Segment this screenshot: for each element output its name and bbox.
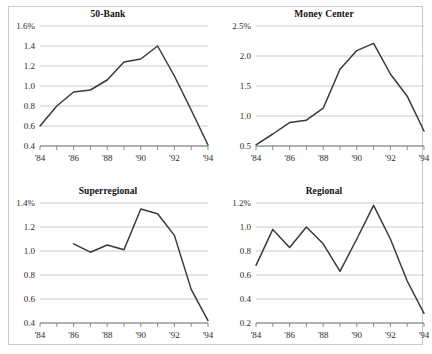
plot-money-center: 2.5%2.01.51.00.5'84'86'88'90'92'94 (216, 0, 432, 177)
svg-text:1.5: 1.5 (240, 81, 252, 91)
svg-text:1.0: 1.0 (24, 246, 36, 256)
svg-text:'86: '86 (68, 153, 79, 163)
svg-text:2.0: 2.0 (240, 51, 252, 61)
svg-text:1.2: 1.2 (24, 222, 35, 232)
svg-text:'92: '92 (169, 153, 180, 163)
svg-text:'90: '90 (351, 153, 362, 163)
svg-text:'94: '94 (419, 153, 430, 163)
svg-text:'86: '86 (284, 153, 295, 163)
svg-text:1.2%: 1.2% (232, 198, 251, 208)
chart-grid: 50-Bank 1.6%1.41.21.00.80.60.4'84'86'88'… (0, 0, 432, 354)
plot-superregional: 1.4%1.21.00.80.60.4'84'86'88'90'92'94 (0, 177, 216, 354)
svg-text:0.8: 0.8 (240, 246, 252, 256)
svg-text:0.6: 0.6 (240, 270, 252, 280)
svg-text:'84: '84 (251, 330, 262, 340)
svg-text:0.8: 0.8 (24, 101, 36, 111)
svg-text:'90: '90 (351, 330, 362, 340)
panel-money-center: Money Center 2.5%2.01.51.00.5'84'86'88'9… (216, 0, 432, 177)
svg-text:'92: '92 (385, 330, 396, 340)
svg-text:'84: '84 (35, 153, 46, 163)
panel-50-bank: 50-Bank 1.6%1.41.21.00.80.60.4'84'86'88'… (0, 0, 216, 177)
svg-text:'90: '90 (135, 153, 146, 163)
svg-text:'84: '84 (35, 330, 46, 340)
svg-text:0.2: 0.2 (240, 318, 251, 328)
svg-text:1.6%: 1.6% (16, 21, 35, 31)
svg-text:1.0: 1.0 (240, 222, 252, 232)
panel-regional: Regional 1.2%1.00.80.60.40.2'84'86'88'90… (216, 177, 432, 354)
svg-text:'94: '94 (203, 330, 214, 340)
svg-text:0.4: 0.4 (24, 141, 36, 151)
plot-regional: 1.2%1.00.80.60.40.2'84'86'88'90'92'94 (216, 177, 432, 354)
svg-text:0.8: 0.8 (24, 270, 36, 280)
svg-text:1.4: 1.4 (24, 41, 36, 51)
svg-text:'94: '94 (203, 153, 214, 163)
svg-text:1.2: 1.2 (24, 61, 35, 71)
svg-text:'88: '88 (318, 153, 329, 163)
svg-text:'84: '84 (251, 153, 262, 163)
svg-text:0.4: 0.4 (240, 294, 252, 304)
svg-text:'88: '88 (102, 153, 113, 163)
svg-text:0.4: 0.4 (24, 318, 36, 328)
svg-text:'94: '94 (419, 330, 430, 340)
svg-text:0.6: 0.6 (24, 294, 36, 304)
plot-50-bank: 1.6%1.41.21.00.80.60.4'84'86'88'90'92'94 (0, 0, 216, 177)
svg-text:1.0: 1.0 (240, 111, 252, 121)
svg-text:2.5%: 2.5% (232, 21, 251, 31)
svg-text:1.0: 1.0 (24, 81, 36, 91)
svg-text:'92: '92 (385, 153, 396, 163)
svg-text:0.6: 0.6 (24, 121, 36, 131)
svg-text:0.5: 0.5 (240, 141, 252, 151)
svg-text:'86: '86 (68, 330, 79, 340)
svg-text:'92: '92 (169, 330, 180, 340)
svg-text:'88: '88 (318, 330, 329, 340)
svg-text:'90: '90 (135, 330, 146, 340)
svg-text:'88: '88 (102, 330, 113, 340)
svg-text:1.4%: 1.4% (16, 198, 35, 208)
svg-text:'86: '86 (284, 330, 295, 340)
panel-superregional: Superregional 1.4%1.21.00.80.60.4'84'86'… (0, 177, 216, 354)
